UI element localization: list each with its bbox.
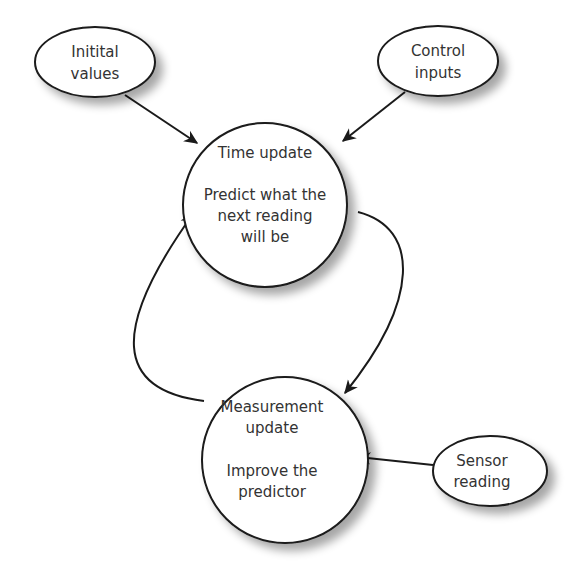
control-inputs-line-1: Control: [411, 42, 465, 60]
edge-initial-to-time: [125, 95, 197, 143]
measurement-update-title-1: Measurement: [221, 398, 324, 416]
node-time-update: Time update Predict what the next readin…: [183, 123, 347, 287]
initial-values-line-1: Initital: [71, 43, 118, 61]
edge-control-to-time: [343, 92, 405, 141]
time-update-desc-2: next reading: [218, 207, 313, 225]
sensor-reading-line-1: Sensor: [456, 452, 508, 470]
time-update-desc-3: will be: [241, 228, 289, 246]
time-update-desc-1: Predict what the: [204, 186, 327, 204]
node-initial-values: Initital values: [35, 27, 155, 97]
sensor-reading-line-2: reading: [454, 473, 511, 491]
measurement-update-desc-2: predictor: [238, 483, 307, 501]
measurement-update-desc-1: Improve the: [226, 462, 317, 480]
edge-sensor-to-measurement: [358, 457, 433, 465]
control-inputs-line-2: inputs: [415, 64, 462, 82]
kalman-filter-diagram: Initital values Control inputs Time upda…: [0, 0, 575, 566]
node-sensor-reading: Sensor reading: [433, 436, 547, 506]
measurement-update-title-2: update: [246, 419, 299, 437]
time-update-title: Time update: [217, 144, 312, 162]
initial-values-line-2: values: [71, 65, 120, 83]
edge-time-to-measurement: [345, 212, 403, 393]
node-control-inputs: Control inputs: [378, 26, 498, 96]
node-measurement-update: Measurement update Improve the predictor: [202, 377, 368, 543]
